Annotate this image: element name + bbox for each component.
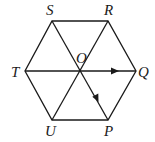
label-R: R — [103, 2, 113, 18]
hexagon-diagram: S R Q P U T O — [0, 0, 155, 142]
label-O: O — [76, 50, 87, 66]
label-P: P — [103, 123, 113, 139]
label-T: T — [11, 64, 21, 80]
arrowhead-OQ-icon — [111, 68, 119, 75]
label-Q: Q — [138, 64, 149, 80]
label-U: U — [45, 123, 57, 139]
label-S: S — [46, 2, 54, 18]
